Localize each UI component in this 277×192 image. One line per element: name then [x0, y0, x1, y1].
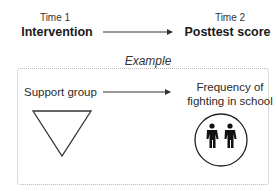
two-people-in-circle-icon: [195, 114, 247, 166]
inverted-triangle-icon: [33, 111, 91, 156]
diagram-graphics: [0, 0, 277, 192]
